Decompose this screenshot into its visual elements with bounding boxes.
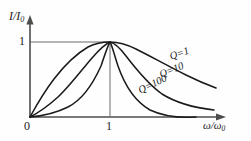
y-axis-label-subscript: 0 bbox=[20, 15, 24, 24]
x-axis-label: ω/ω0 bbox=[203, 120, 225, 133]
x-axis-label-subscript: 0 bbox=[222, 124, 226, 133]
tick-label-x-one: 1 bbox=[106, 120, 112, 132]
tick-label-origin: 0 bbox=[24, 120, 30, 132]
y-axis-label: I/I0 bbox=[9, 10, 24, 24]
x-axis-label-text: ω/ω bbox=[203, 119, 222, 131]
y-axis-label-text: I/I bbox=[9, 9, 20, 23]
tick-label-y-one: 1 bbox=[19, 35, 25, 47]
y-axis bbox=[26, 15, 33, 117]
resonance-curve-figure: I/I0 ω/ω0 0 1 1 Q=1 Q=10 Q=100 bbox=[0, 0, 251, 141]
